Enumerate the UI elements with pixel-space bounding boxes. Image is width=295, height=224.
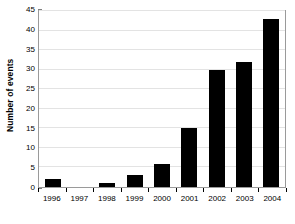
y-axis-tick-label: 5 (31, 164, 35, 172)
bar (209, 70, 225, 187)
y-axis-tick-label: 10 (26, 144, 35, 152)
x-axis-tick-labels: 199619971998199920002001200220032004 (38, 194, 286, 208)
x-axis-tick-label: 1999 (121, 194, 149, 208)
y-axis-tick-label: 45 (26, 6, 35, 14)
x-axis-tick-mark (176, 188, 177, 192)
x-axis-tick-label: 2002 (203, 194, 231, 208)
bar-slot (39, 11, 66, 187)
x-axis-tick-label: 2004 (259, 194, 287, 208)
y-axis-tick-label: 20 (26, 105, 35, 113)
x-axis-tick-mark (286, 188, 287, 192)
bar (45, 179, 61, 187)
y-axis-tick-label: 15 (26, 125, 35, 133)
x-axis-tick-mark (93, 188, 94, 192)
x-axis-tick-label: 1996 (38, 194, 66, 208)
bar (181, 128, 197, 187)
x-axis-tick-mark (148, 188, 149, 192)
x-axis-tick-label: 1998 (93, 194, 121, 208)
bar (127, 175, 143, 187)
bar (236, 62, 252, 187)
y-axis-title: Number of events (0, 0, 22, 190)
x-axis-tick-label: 2000 (148, 194, 176, 208)
bar (263, 19, 279, 187)
bar-slot (258, 11, 285, 187)
plot-area (38, 10, 286, 188)
x-axis-tick-label: 2001 (176, 194, 204, 208)
x-axis-tick-mark (203, 188, 204, 192)
x-axis-tick-mark (66, 188, 67, 192)
x-axis-tick-mark (231, 188, 232, 192)
bar-slot (66, 11, 93, 187)
bar-slot (230, 11, 257, 187)
bar-chart-figure: Number of events 051015202530354045 1996… (0, 0, 295, 224)
x-axis-tick-mark (258, 188, 259, 192)
y-axis-tick-label: 35 (26, 46, 35, 54)
y-axis-title-label: Number of events (7, 58, 16, 131)
bars-layer (39, 11, 285, 187)
bar (99, 183, 115, 187)
y-axis-tick-label: 40 (26, 26, 35, 34)
bar (154, 164, 170, 187)
x-axis-tick-label: 2003 (231, 194, 259, 208)
x-axis-tick-mark (38, 188, 39, 192)
y-axis-tick-label: 25 (26, 85, 35, 93)
y-axis-tick-label: 30 (26, 65, 35, 73)
y-axis-tick-label: 0 (31, 184, 35, 192)
bar-slot (148, 11, 175, 187)
x-axis-tick-mark (121, 188, 122, 192)
bar-slot (176, 11, 203, 187)
y-axis-tick-labels: 051015202530354045 (20, 10, 38, 188)
bar-slot (203, 11, 230, 187)
bar-slot (94, 11, 121, 187)
bar-slot (121, 11, 148, 187)
x-axis-tick-label: 1997 (66, 194, 94, 208)
x-axis-tick-marks (38, 188, 286, 192)
